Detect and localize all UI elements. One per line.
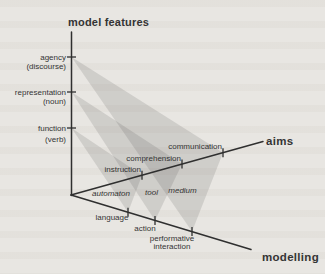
representation-label: representation [15, 88, 66, 97]
function-label: function [38, 124, 66, 133]
function-sublabel: (verb) [45, 135, 66, 144]
model-features-axis-title: model features [68, 16, 149, 28]
communication-label: communication [168, 142, 222, 151]
modelling-tick-labels: language action performative interaction [96, 213, 195, 251]
agency-sublabel: (discourse) [26, 62, 66, 71]
modelling-axis-title: modelling [262, 251, 319, 263]
automaton-label: automaton [92, 189, 130, 198]
comprehension-label: comprehension [126, 154, 181, 163]
tool-label: tool [145, 188, 158, 197]
aims-axis-title: aims [266, 135, 293, 147]
representation-sublabel: (noun) [43, 97, 66, 106]
language-label: language [96, 213, 129, 222]
medium-label: medium [168, 186, 197, 195]
performative-label-line2: interaction [154, 242, 191, 251]
instruction-label: instruction [105, 165, 141, 174]
agency-label: agency [40, 53, 66, 62]
model-features-aims-modelling-diagram: model features aims modelling agency (di… [0, 0, 325, 274]
scanned-page: model features aims modelling agency (di… [0, 0, 325, 274]
action-label: action [134, 224, 155, 233]
model-features-tick-labels: agency (discourse) representation (noun)… [15, 53, 66, 144]
